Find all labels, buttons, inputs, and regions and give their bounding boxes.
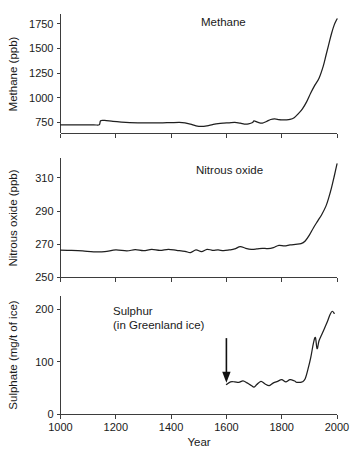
- sulphur-x-ticks: [61, 415, 338, 419]
- nitrous-oxide-data-curve: [61, 164, 338, 253]
- methane-x-ticks: [61, 134, 338, 138]
- y-tick-label: 270: [35, 238, 53, 250]
- x-tick-label: 1600: [214, 421, 238, 433]
- y-tick-label: 200: [35, 303, 53, 315]
- sulphur-panel-title: Sulphur: [113, 305, 153, 317]
- methane-data-curve: [61, 19, 338, 126]
- y-tick-label: 250: [35, 271, 53, 283]
- nitrous-y-axis-label: Nitrous oxide (ppb): [7, 169, 19, 266]
- x-axis-label: Year: [187, 436, 210, 448]
- y-tick-label: 290: [35, 205, 53, 217]
- panel-methane: 7501000125015001750 Methane (ppb) Methan…: [7, 14, 337, 138]
- y-tick-label: 1750: [29, 18, 53, 30]
- sulphur-panel-subtitle: (in Greenland ice): [113, 319, 205, 331]
- x-tick-label: 1400: [159, 421, 183, 433]
- y-tick-label: 0: [47, 408, 53, 420]
- arrow-head-icon: [222, 372, 230, 383]
- panel-nitrous-oxide: 250270290310 Nitrous oxide (ppb) Nitrous…: [7, 158, 337, 283]
- y-tick-label: 100: [35, 356, 53, 368]
- nitrous-y-ticks: 250270290310: [35, 172, 60, 284]
- y-tick-label: 1000: [29, 92, 53, 104]
- x-tick-label: 1000: [48, 421, 72, 433]
- methane-y-axis-label: Methane (ppb): [7, 36, 19, 111]
- sulphur-data-curve: [226, 311, 334, 387]
- y-tick-label: 1250: [29, 67, 53, 79]
- nitrous-panel-title: Nitrous oxide: [196, 164, 263, 176]
- y-tick-label: 1500: [29, 42, 53, 54]
- methane-panel-title: Methane: [201, 16, 246, 28]
- figure-container: 7501000125015001750 Methane (ppb) Methan…: [0, 0, 353, 454]
- sulphur-y-axis-label: Sulphate (mg/t of ice): [7, 300, 19, 409]
- x-tick-label: 2000: [325, 421, 349, 433]
- ice-core-multi-panel-chart: 7501000125015001750 Methane (ppb) Methan…: [0, 0, 353, 454]
- y-tick-label: 310: [35, 172, 53, 184]
- x-tick-label: 1800: [269, 421, 293, 433]
- nitrous-x-ticks: [61, 278, 338, 282]
- sulphur-x-tick-labels: 100012001400160018002000: [48, 421, 349, 433]
- sulphur-y-ticks: 0100200: [35, 303, 60, 420]
- methane-y-ticks: 7501000125015001750: [29, 18, 60, 129]
- panel-sulphur: 0100200 100012001400160018002000 Sulphat…: [7, 296, 349, 448]
- sulphur-onset-arrow-annotation: [222, 338, 230, 383]
- y-tick-label: 750: [35, 116, 53, 128]
- x-tick-label: 1200: [104, 421, 128, 433]
